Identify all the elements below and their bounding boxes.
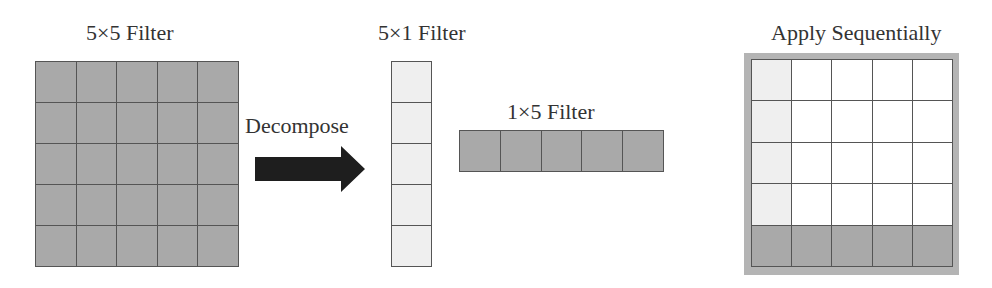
filter-cell [158,185,199,226]
filter-cell [198,103,239,144]
filter-cell [752,60,792,101]
filter-cell [792,226,832,267]
filter-cell [752,143,792,184]
filter-cell [752,226,792,267]
filter-cell [913,101,953,142]
filter-cell [792,101,832,142]
filter-cell [832,60,872,101]
filter-cell [873,184,913,225]
filter-cell [198,62,239,103]
filter-cell [117,62,158,103]
filter-cell [392,103,432,144]
filter-cell [752,101,792,142]
filter-cell [77,226,118,267]
filter-cell [913,226,953,267]
filter-cell [582,131,623,172]
filter-5x5-label: 5×5 Filter [86,22,174,44]
filter-cell [158,226,199,267]
filter-cell [913,184,953,225]
filter-cell [501,131,542,172]
filter-cell [77,103,118,144]
filter-cell [158,103,199,144]
filter-cell [198,185,239,226]
filter-cell [792,60,832,101]
filter-cell [117,226,158,267]
filter-cell [77,144,118,185]
filter-cell [36,226,77,267]
filter-cell [913,60,953,101]
filter-cell [832,184,872,225]
filter-cell [873,101,913,142]
filter-cell [752,184,792,225]
filter-1x5-grid [459,130,664,172]
filter-cell [460,131,501,172]
result-grid [751,59,953,267]
filter-cell [117,103,158,144]
filter-cell [873,226,913,267]
filter-cell [913,143,953,184]
filter-cell [36,62,77,103]
filter-cell [792,184,832,225]
filter-cell [792,143,832,184]
filter-5x5-grid [35,61,239,267]
filter-cell [392,62,432,103]
filter-cell [36,185,77,226]
filter-cell [158,62,199,103]
filter-cell [36,103,77,144]
filter-cell [392,144,432,185]
filter-cell [198,226,239,267]
filter-cell [832,226,872,267]
filter-1x5-label: 1×5 Filter [507,101,595,123]
filter-cell [198,144,239,185]
filter-cell [873,143,913,184]
filter-cell [158,144,199,185]
filter-cell [36,144,77,185]
filter-cell [832,143,872,184]
decompose-label: Decompose [245,115,349,137]
filter-cell [623,131,664,172]
filter-cell [542,131,583,172]
filter-5x1-label: 5×1 Filter [378,22,466,44]
filter-cell [77,185,118,226]
filter-cell [392,226,432,267]
filter-cell [117,144,158,185]
filter-cell [832,101,872,142]
filter-cell [392,185,432,226]
filter-cell [873,60,913,101]
right-arrow-icon [255,146,365,192]
apply-sequentially-label: Apply Sequentially [771,22,941,44]
filter-cell [77,62,118,103]
filter-cell [117,185,158,226]
filter-5x1-grid [391,61,432,267]
